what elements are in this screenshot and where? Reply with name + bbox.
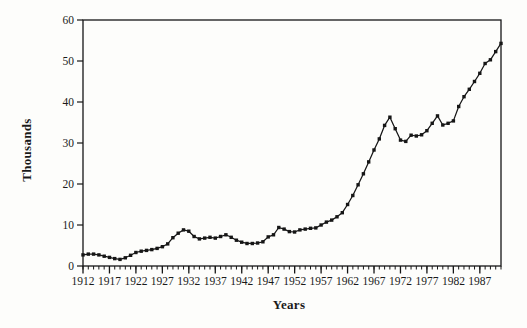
data-point-marker (203, 236, 206, 239)
data-point-marker (489, 58, 492, 61)
data-point-marker (388, 116, 391, 119)
data-point-marker (309, 227, 312, 230)
data-point-marker (230, 236, 233, 239)
data-point-marker (261, 240, 264, 243)
data-point-marker (97, 253, 100, 256)
data-point-marker (346, 203, 349, 206)
x-tick-label: 1912 (72, 275, 95, 287)
data-point-marker (441, 123, 444, 126)
y-tick-label: 10 (63, 219, 75, 231)
data-point-marker (462, 95, 465, 98)
data-point-marker (425, 129, 428, 132)
x-tick-label: 1977 (415, 275, 438, 287)
data-point-marker (335, 215, 338, 218)
x-tick-label: 1942 (230, 275, 253, 287)
x-tick-label: 1957 (310, 275, 333, 287)
data-point-marker (367, 160, 370, 163)
data-point-marker (383, 124, 386, 127)
data-point-marker (351, 194, 354, 197)
data-point-marker (182, 228, 185, 231)
data-point-marker (166, 242, 169, 245)
series-line (83, 43, 501, 259)
x-tick-label: 1932 (177, 275, 200, 287)
data-point-marker (288, 230, 291, 233)
data-point-marker (473, 80, 476, 83)
data-point-marker (431, 122, 434, 125)
data-point-marker (478, 72, 481, 75)
data-point-marker (198, 237, 201, 240)
data-point-marker (214, 236, 217, 239)
data-point-marker (245, 242, 248, 245)
data-point-marker (499, 42, 502, 45)
data-point-marker (293, 230, 296, 233)
data-point-marker (494, 50, 497, 53)
x-tick-label: 1972 (389, 275, 412, 287)
data-point-marker (404, 140, 407, 143)
x-tick-label: 1917 (98, 275, 121, 287)
data-point-marker (124, 256, 127, 259)
x-axis-title: Years (273, 297, 306, 313)
data-point-marker (372, 148, 375, 151)
x-tick-label: 1982 (442, 275, 465, 287)
y-axis-title: Thousands (19, 118, 35, 181)
data-point-marker (177, 232, 180, 235)
data-point-marker (208, 236, 211, 239)
x-tick-label: 1987 (468, 275, 491, 287)
data-point-marker (103, 255, 106, 258)
data-point-marker (457, 105, 460, 108)
plot-frame (83, 20, 501, 266)
y-tick-label: 60 (63, 14, 75, 26)
y-tick-label: 50 (63, 55, 75, 67)
data-point-marker (155, 247, 158, 250)
data-point-marker (319, 223, 322, 226)
chart-page: 0102030405060191219171922192719321937194… (0, 0, 527, 328)
data-point-marker (341, 211, 344, 214)
data-point-marker (356, 183, 359, 186)
data-point-marker (362, 172, 365, 175)
data-point-marker (256, 241, 259, 244)
data-point-marker (420, 133, 423, 136)
data-point-marker (282, 227, 285, 230)
data-point-marker (187, 230, 190, 233)
data-point-marker (108, 256, 111, 259)
data-point-marker (219, 235, 222, 238)
data-point-marker (92, 252, 95, 255)
data-point-marker (161, 245, 164, 248)
x-tick-label: 1937 (204, 275, 227, 287)
data-point-marker (446, 122, 449, 125)
data-point-marker (399, 138, 402, 141)
data-point-marker (272, 233, 275, 236)
line-chart: 0102030405060191219171922192719321937194… (0, 0, 527, 328)
data-point-marker (251, 242, 254, 245)
y-tick-label: 20 (63, 178, 75, 190)
y-tick-label: 40 (63, 96, 75, 108)
data-point-marker (409, 134, 412, 137)
x-tick-label: 1927 (151, 275, 174, 287)
data-point-marker (134, 251, 137, 254)
data-point-marker (140, 250, 143, 253)
data-point-marker (145, 249, 148, 252)
x-tick-label: 1962 (336, 275, 359, 287)
x-tick-label: 1922 (124, 275, 147, 287)
data-point-marker (468, 88, 471, 91)
y-tick-label: 0 (68, 260, 74, 272)
y-tick-label: 30 (63, 137, 75, 149)
data-point-marker (325, 220, 328, 223)
data-point-marker (298, 228, 301, 231)
data-point-marker (330, 218, 333, 221)
data-point-marker (240, 241, 243, 244)
data-point-marker (394, 127, 397, 130)
data-point-marker (171, 236, 174, 239)
data-point-marker (81, 253, 84, 256)
data-point-marker (415, 134, 418, 137)
data-point-marker (224, 233, 227, 236)
data-point-marker (113, 257, 116, 260)
data-point-marker (118, 258, 121, 261)
data-point-marker (87, 252, 90, 255)
data-point-marker (192, 235, 195, 238)
data-point-marker (129, 254, 132, 257)
data-point-marker (436, 114, 439, 117)
data-point-marker (235, 239, 238, 242)
data-point-marker (483, 62, 486, 65)
data-point-marker (378, 137, 381, 140)
